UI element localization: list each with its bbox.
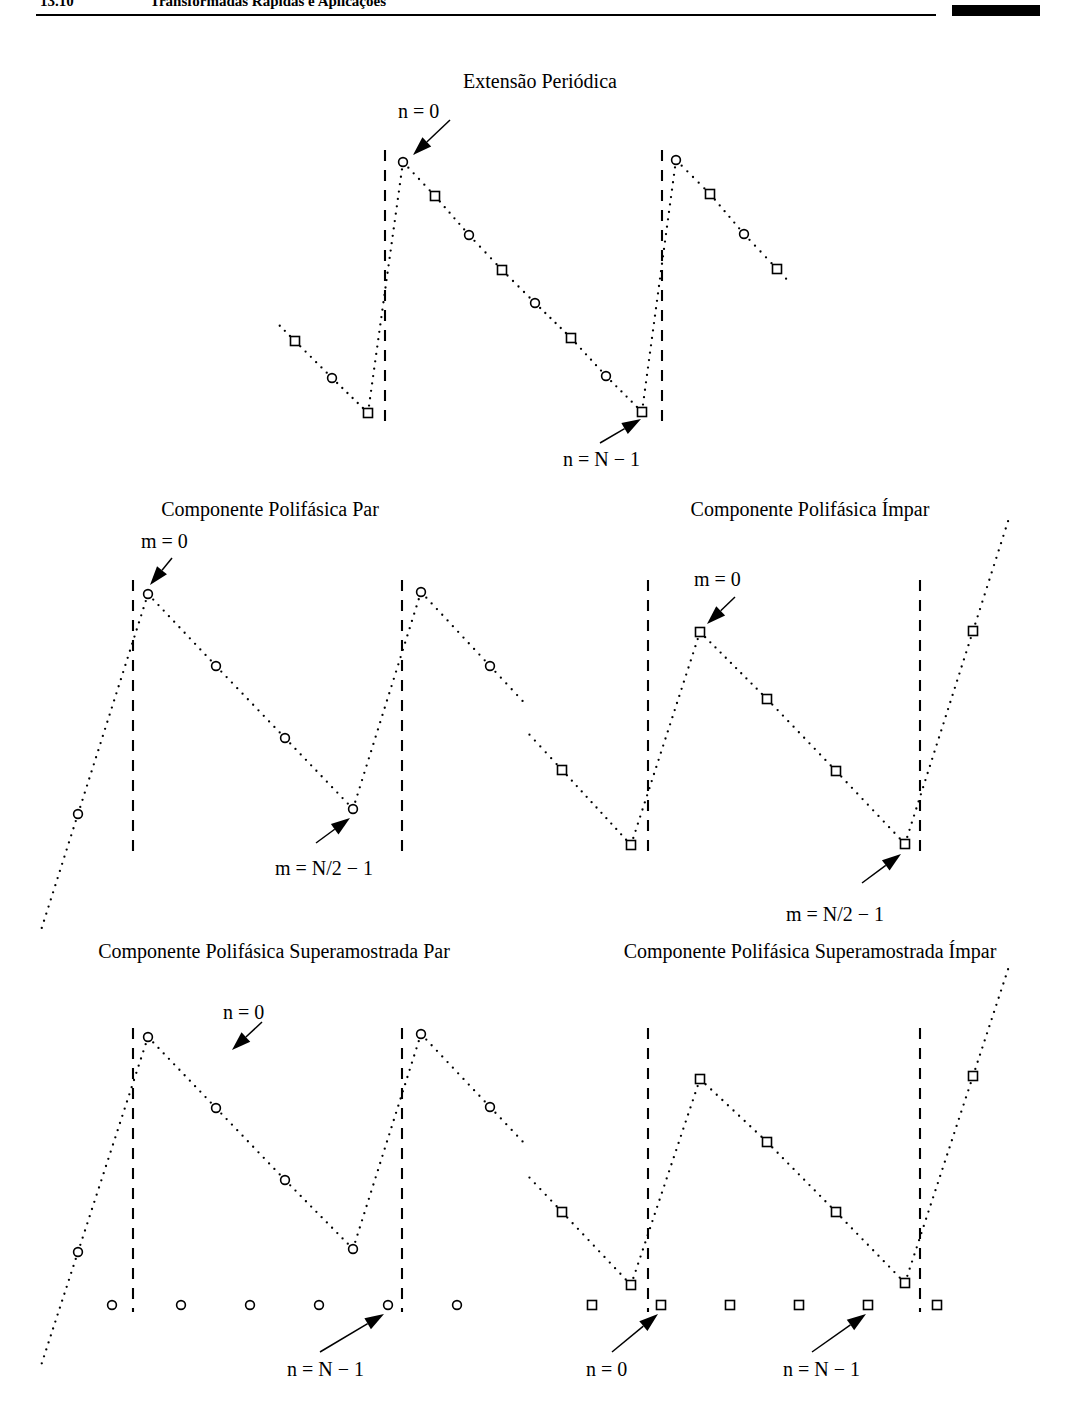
- dotted-segment-dot: [511, 688, 513, 690]
- dotted-segment-dot: [70, 834, 72, 836]
- dotted-segment-dot: [970, 1082, 972, 1084]
- dotted-segment-dot: [407, 167, 409, 169]
- dotted-segment-dot: [819, 1195, 821, 1197]
- dotted-segment-dot: [754, 245, 756, 247]
- dotted-segment-dot: [877, 1255, 879, 1257]
- dotted-segment-dot: [110, 1151, 112, 1153]
- dotted-segment-dot: [61, 1300, 63, 1302]
- dotted-segment-dot: [620, 833, 622, 835]
- dotted-segment-dot: [934, 1189, 936, 1191]
- dotted-segment-dot: [365, 764, 367, 766]
- sample-marker: [638, 408, 647, 417]
- dotted-segment-dot: [782, 714, 784, 716]
- dotted-segment-dot: [50, 898, 52, 900]
- dotted-segment-dot: [984, 1039, 986, 1041]
- sample-marker: [74, 1248, 83, 1257]
- dotted-segment-dot: [671, 188, 673, 190]
- dotted-segment-dot: [662, 255, 664, 257]
- dotted-segment-dot: [413, 1054, 415, 1056]
- dotted-segment-dot: [484, 251, 486, 253]
- dotted-segment-dot: [1000, 542, 1002, 544]
- dotted-segment-dot: [268, 1162, 270, 1164]
- dotted-segment-dot: [528, 296, 530, 298]
- dotted-segment-dot: [56, 877, 58, 879]
- dotted-segment-dot: [657, 292, 659, 294]
- dotted-segment-dot: [669, 723, 671, 725]
- dotted-segment-dot: [436, 1050, 438, 1052]
- dotted-segment-dot: [138, 1065, 140, 1067]
- dotted-segment-dot: [954, 687, 956, 689]
- dotted-segment-dot: [157, 604, 159, 606]
- dotted-segment-dot: [977, 1061, 979, 1063]
- dotted-segment-dot: [756, 688, 758, 690]
- dotted-segment-dot: [661, 1192, 663, 1194]
- dotted-segment-dot: [189, 1080, 191, 1082]
- dotted-segment-dot: [300, 753, 302, 755]
- dotted-segment-dot: [642, 1248, 644, 1250]
- dotted-segment-dot: [494, 671, 496, 673]
- dotted-segment-dot: [908, 829, 910, 831]
- dotted-segment-dot: [52, 1327, 54, 1329]
- dotted-segment-dot: [673, 1156, 675, 1158]
- dotted-segment-dot: [225, 676, 227, 678]
- dotted-segment-dot: [383, 294, 385, 296]
- dotted-segment-dot: [279, 1173, 281, 1175]
- arrow-n-zero-odd-upsampled: [612, 1314, 658, 1352]
- dotted-segment-dot: [86, 1222, 88, 1224]
- dotted-segment-dot: [418, 1040, 420, 1042]
- annotation-arrow-shaft: [721, 597, 735, 611]
- dotted-segment-dot: [418, 598, 420, 600]
- annotation-arrow-shaft: [812, 1325, 850, 1352]
- sample-marker: [212, 662, 221, 671]
- dotted-segment-dot: [600, 812, 602, 814]
- sample-marker: [291, 337, 300, 346]
- dotted-segment-dot: [678, 695, 680, 697]
- dotted-segment-dot: [598, 1250, 600, 1252]
- dotted-segment-dot: [425, 597, 427, 599]
- dotted-segment-dot: [252, 704, 254, 706]
- annotation-arrow-shaft: [427, 120, 450, 142]
- dotted-segment-dot: [673, 174, 675, 176]
- dotted-segment-dot: [236, 1129, 238, 1131]
- sample-marker: [901, 1279, 910, 1288]
- dotted-segment-dot: [300, 1195, 302, 1197]
- dotted-segment-dot: [988, 1025, 990, 1027]
- dotted-segment-dot: [680, 1135, 682, 1137]
- dotted-segment-dot: [59, 870, 61, 872]
- dotted-segment-dot: [365, 1205, 367, 1207]
- dotted-segment-dot: [651, 1220, 653, 1222]
- figure-plot-surface: [0, 0, 1080, 1411]
- dotted-segment-dot: [927, 772, 929, 774]
- dotted-segment-dot: [47, 905, 49, 907]
- dotted-segment-dot: [689, 1106, 691, 1108]
- dotted-segment-dot: [305, 759, 307, 761]
- dotted-segment-dot: [413, 613, 415, 615]
- dotted-segment-dot: [960, 1111, 962, 1113]
- dotted-segment-dot: [505, 1123, 507, 1125]
- dotted-segment-dot: [984, 593, 986, 595]
- zero-sample-marker: [108, 1301, 117, 1310]
- dotted-segment-dot: [920, 793, 922, 795]
- dotted-segment-dot: [115, 692, 117, 694]
- dotted-segment-dot: [929, 765, 931, 767]
- dotted-segment-dot: [468, 1083, 470, 1085]
- dotted-segment-dot: [178, 626, 180, 628]
- dotted-segment-dot: [998, 997, 1000, 999]
- annotation-arrow-shaft: [862, 865, 886, 883]
- dotted-segment-dot: [458, 223, 460, 225]
- dotted-segment-dot: [395, 213, 397, 215]
- dotted-segment-dot: [534, 1182, 536, 1184]
- dotted-segment-dot: [347, 1243, 349, 1245]
- dotted-segment-dot: [644, 389, 646, 391]
- dotted-segment-dot: [645, 381, 647, 383]
- plot-even-upsampled: [41, 1028, 524, 1364]
- dotted-segment-dot: [375, 353, 377, 355]
- dotted-segment-dot: [782, 1157, 784, 1159]
- dotted-segment-dot: [377, 338, 379, 340]
- dotted-segment-dot: [279, 325, 281, 327]
- dotted-segment-dot: [98, 1186, 100, 1188]
- dotted-segment-dot: [385, 279, 387, 281]
- dotted-segment-dot: [406, 1076, 408, 1078]
- zero-sample-marker: [246, 1301, 255, 1310]
- sample-marker: [417, 588, 426, 597]
